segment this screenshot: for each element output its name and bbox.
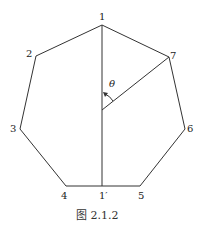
vertex-label-5: 5 xyxy=(138,190,144,201)
vertex-label-3: 3 xyxy=(10,123,16,134)
vertex-label-1: 1 xyxy=(99,11,105,22)
theta-label: θ xyxy=(109,78,115,89)
vertex-label-6: 6 xyxy=(187,123,193,134)
vertex-label-7: 7 xyxy=(170,50,176,61)
vertex-label-4: 4 xyxy=(61,190,67,201)
point-label-1-prime: 1′ xyxy=(99,190,108,201)
figure-caption: 图 2.1.2 xyxy=(76,209,119,222)
heptagon-figure: θ 1 2 3 4 5 6 7 1′ 图 2.1.2 xyxy=(0,0,199,227)
arrow-head-icon xyxy=(103,92,108,97)
vertex-label-2: 2 xyxy=(26,48,32,59)
diagram-svg: θ 1 2 3 4 5 6 7 1′ 图 2.1.2 xyxy=(0,0,199,227)
